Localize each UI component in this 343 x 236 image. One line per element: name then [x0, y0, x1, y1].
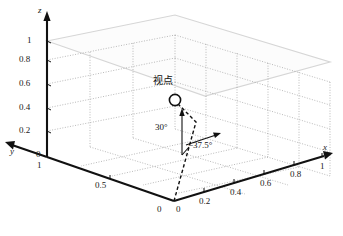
x-tick-0-2: 0.2: [199, 197, 210, 206]
z-tick-0: 0: [36, 150, 41, 159]
z-tick-0-6: 0.6: [19, 79, 30, 88]
azimuth-arrow: [213, 132, 221, 138]
z-axis-arrow: [43, 11, 50, 21]
x-tick-1: 1: [320, 162, 325, 171]
z-tick-0-4: 0.4: [19, 103, 30, 112]
y-tick-1: 1: [37, 161, 42, 170]
y-axis-label: y: [10, 147, 14, 156]
azimuth-angle-label: −37.5°: [188, 141, 212, 150]
z-axis-label: z: [38, 6, 42, 15]
viewpoint-circle-marker: [169, 94, 180, 105]
z-tick-1: 1: [27, 36, 32, 45]
y-tick-0: 0: [157, 205, 162, 214]
elevation-angle-label: 30°: [155, 123, 168, 132]
x-axis-line: [174, 156, 324, 201]
x-tick-0-6: 0.6: [260, 179, 271, 188]
viewpoint-ray: [174, 104, 196, 201]
x-tick-0-8: 0.8: [290, 170, 301, 179]
figure-canvas: 1 0.8 0.6 0.4 0.2 0 1 0.5 0 0 0.2 0.4 0.…: [0, 0, 343, 236]
x-axis-label: x: [323, 143, 327, 152]
x-tick-0: 0: [176, 205, 181, 214]
z-tick-0-8: 0.8: [19, 55, 30, 64]
plot-svg: [0, 0, 343, 236]
top-plane: [47, 15, 330, 96]
x-tick-0-4: 0.4: [230, 188, 241, 197]
y-tick-0-5: 0.5: [95, 181, 106, 190]
y-axis-line: [12, 145, 47, 157]
z-tick-0-2: 0.2: [19, 126, 30, 135]
x-axis-arrow: [323, 151, 333, 160]
viewpoint-label: 视点: [153, 76, 173, 86]
